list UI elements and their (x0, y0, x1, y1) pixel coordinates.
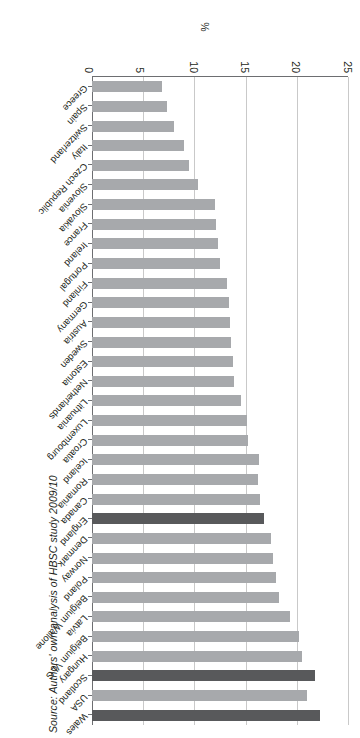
category-tick (88, 145, 92, 146)
bar-row: Spain (92, 101, 348, 112)
bar-sweden (92, 337, 231, 348)
bar-row: Luxembourg (92, 415, 348, 426)
bar-row: Austria (92, 317, 348, 328)
category-tick (88, 616, 92, 617)
bar-row: Portugal (92, 258, 348, 269)
bar-row: Czech Republic (92, 160, 348, 171)
category-tick (88, 655, 92, 656)
category-tick (88, 498, 92, 499)
bar-portugal (92, 258, 220, 269)
category-tick (88, 537, 92, 538)
bar-row: Denmark (92, 533, 348, 544)
bar-row: Canada (92, 494, 348, 505)
bar-germany (92, 297, 229, 308)
category-tick (88, 184, 92, 185)
category-tick (88, 479, 92, 480)
bar-row: Finland (92, 278, 348, 289)
bar-poland (92, 572, 276, 583)
bar-row: USA (92, 690, 348, 701)
x-tick-label-15: 15 (239, 61, 251, 73)
bar-luxembourg (92, 415, 247, 426)
bar-latvia (92, 612, 290, 623)
bar-england (92, 513, 264, 524)
category-tick (88, 439, 92, 440)
bar-lithuania (92, 396, 242, 407)
bar-norway (92, 553, 273, 564)
x-axis-tick-labels: 0510152025 (92, 33, 348, 73)
bar-row: Hungary (92, 651, 348, 662)
bar-row: Estonia (92, 356, 348, 367)
bar-row: France (92, 219, 348, 230)
category-tick (88, 361, 92, 362)
bar-netherlands (92, 376, 234, 387)
category-tick (88, 714, 92, 715)
bar-hungary (92, 651, 302, 662)
category-tick (88, 577, 92, 578)
bar-switzerland (92, 121, 174, 132)
bar-canada (92, 494, 260, 505)
category-tick (88, 518, 92, 519)
category-tick (88, 86, 92, 87)
category-tick (88, 105, 92, 106)
bar-belgium-vlg (92, 631, 299, 642)
bar-slovakia (92, 199, 215, 210)
category-tick (88, 223, 92, 224)
category-tick (88, 695, 92, 696)
bar-wales (92, 710, 320, 721)
bar-austria (92, 317, 230, 328)
bar-row: Poland (92, 572, 348, 583)
bar-finland (92, 278, 227, 289)
plot-area: WalesUSAScotlandHungaryBelgium VLGLatvia… (92, 77, 348, 725)
bar-row: Scotland (92, 670, 348, 681)
category-tick (88, 243, 92, 244)
x-tick-label-20: 20 (291, 61, 303, 73)
bar-row: Switzerland (92, 121, 348, 132)
category-label: Wales (64, 711, 90, 738)
category-tick (88, 282, 92, 283)
x-tick-label-0: 0 (83, 67, 95, 73)
source-note: Source: Authors' own analysis of HBSC st… (42, 0, 64, 733)
category-tick (88, 380, 92, 381)
x-axis-title: % (199, 22, 211, 31)
bar-greece (92, 81, 162, 92)
bar-usa (92, 690, 307, 701)
category-tick (88, 636, 92, 637)
x-tick-label-5: 5 (134, 67, 146, 73)
bar-row: Greece (92, 81, 348, 92)
category-tick (88, 400, 92, 401)
bar-row: Belgium VLG (92, 631, 348, 642)
bar-italy (92, 140, 184, 151)
category-tick (88, 459, 92, 460)
category-tick (88, 164, 92, 165)
category-tick (88, 302, 92, 303)
bar-row: Italy (92, 140, 348, 151)
category-tick (88, 204, 92, 205)
x-tick-label-10: 10 (188, 61, 200, 73)
category-tick (88, 263, 92, 264)
bar-slovenia (92, 180, 198, 191)
x-tick-label-25: 25 (342, 61, 354, 73)
bar-row: Croatia (92, 435, 348, 446)
bar-belgium-wallone (92, 592, 279, 603)
bar-row: Netherlands (92, 376, 348, 387)
category-tick (88, 341, 92, 342)
bar-spain (92, 101, 167, 112)
bar-row: Sweden (92, 337, 348, 348)
bar-romania (92, 474, 258, 485)
bar-croatia (92, 435, 248, 446)
bar-row: Wales (92, 710, 348, 721)
category-tick (88, 420, 92, 421)
bar-ireland (92, 238, 218, 249)
bar-france (92, 219, 216, 230)
category-tick (88, 557, 92, 558)
bar-row: Latvia (92, 612, 348, 623)
bar-row: Slovakia (92, 199, 348, 210)
gridline-25 (348, 77, 349, 725)
bar-row: Norway (92, 553, 348, 564)
category-tick (88, 125, 92, 126)
bar-row: Slovenia (92, 180, 348, 191)
bar-czech-republic (92, 160, 189, 171)
category-tick (88, 596, 92, 597)
bar-row: Belgium Wallone (92, 592, 348, 603)
